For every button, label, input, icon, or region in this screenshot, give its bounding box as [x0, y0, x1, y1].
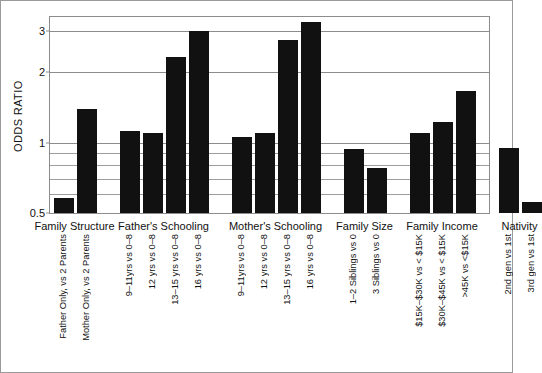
bar-category-label-text: 2nd gen vs 1st — [503, 234, 514, 294]
bar-category-label: 12 yrs vs 0–8 — [259, 234, 270, 364]
bar-category-label-text: 9–11yrs vs 0–8 — [124, 234, 135, 296]
bar-category-label-text: 13–15 yrs vs 0–8 — [170, 234, 181, 305]
bar-category-label: 13–15 yrs vs 0–8 — [282, 234, 293, 364]
bar — [410, 133, 430, 213]
bar-category-label: 2nd gen vs 1st — [503, 234, 514, 364]
bar — [456, 91, 476, 213]
y-tick-mark — [46, 213, 50, 214]
group-label: Family Size — [336, 220, 393, 232]
bar — [143, 133, 163, 213]
bar-category-label-text: 9–11yrs vs 0–8 — [236, 234, 247, 296]
bar — [522, 202, 542, 213]
bar-category-label-text: $30K–$45K vs < $15K — [437, 234, 448, 327]
bar-category-label: 9–11yrs vs 0–8 — [236, 234, 247, 364]
bar-category-label-text: Father Only, vs 2 Parents — [58, 234, 69, 339]
y-tick-label: 0.5 — [30, 207, 45, 219]
bar-category-label: 16 yrs vs 0–8 — [193, 234, 204, 364]
y-tick-label: 2 — [39, 66, 45, 78]
bar — [189, 31, 209, 213]
bar — [301, 22, 321, 213]
bar — [232, 137, 252, 213]
bar-category-label: 16 yrs vs 0–8 — [305, 234, 316, 364]
y-axis-title: ODDS RATIO — [9, 56, 27, 176]
group-label: Family Structure — [34, 220, 114, 232]
bar-category-label-text: 16 yrs vs 0–8 — [193, 234, 204, 289]
bar-category-label: $15K–$30K vs < $15K — [414, 234, 425, 364]
y-gridline-major — [50, 72, 489, 73]
bar-category-label: 1–2 Siblings vs 0 — [348, 234, 359, 364]
bar — [344, 149, 364, 213]
bar — [54, 198, 74, 213]
bar-category-label: 13–15 yrs vs 0–8 — [170, 234, 181, 364]
bar-category-label-text: 13–15 yrs vs 0–8 — [282, 234, 293, 305]
y-tick-label: 1 — [39, 137, 45, 149]
y-tick-label: 3 — [39, 25, 45, 37]
bar-category-label-text: >45K vs <$15K — [460, 234, 471, 298]
bar-category-label: Father Only, vs 2 Parents — [58, 234, 69, 364]
bar-category-label: $30K–$45K vs < $15K — [437, 234, 448, 364]
bar-category-label: 9–11yrs vs 0–8 — [124, 234, 135, 364]
bar — [367, 168, 387, 213]
plot-area: 0.5123 — [49, 16, 490, 214]
bar-category-label-text: 3 Siblings vs 0 — [371, 234, 382, 294]
bar-category-label-text: Mother Only, vs 2 Parents — [81, 234, 92, 341]
bar — [278, 40, 298, 213]
bar-category-label: 3rd gen vs 1st — [526, 234, 537, 364]
bar-category-label-text: $15K–$30K vs < $15K — [414, 234, 425, 327]
bar — [433, 122, 453, 213]
bar — [77, 109, 97, 213]
y-gridline-major — [50, 31, 489, 32]
bar — [255, 133, 275, 213]
bar-category-label-text: 16 yrs vs 0–8 — [305, 234, 316, 289]
bar-category-label: 3 Siblings vs 0 — [371, 234, 382, 364]
bar-category-label-text: 3rd gen vs 1st — [526, 234, 537, 292]
group-label: Nativity — [501, 220, 537, 232]
bar — [166, 57, 186, 213]
group-label: Family Income — [406, 220, 478, 232]
bar-category-label: 12 yrs vs 0–8 — [147, 234, 158, 364]
group-label: Mother's Schooling — [229, 220, 322, 232]
bar-category-label-text: 12 yrs vs 0–8 — [259, 234, 270, 289]
bar — [499, 148, 519, 213]
group-label: Father's Schooling — [118, 220, 209, 232]
bar-category-label-text: 1–2 Siblings vs 0 — [348, 234, 359, 304]
bar — [120, 131, 140, 213]
bar-category-label-text: 12 yrs vs 0–8 — [147, 234, 158, 289]
bar-category-label: Mother Only, vs 2 Parents — [81, 234, 92, 364]
bar-category-label: >45K vs <$15K — [460, 234, 471, 364]
